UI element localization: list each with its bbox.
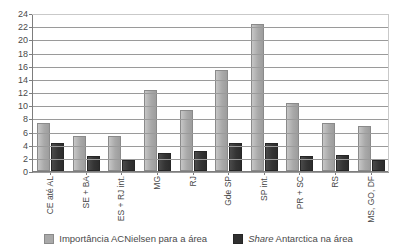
gridline (33, 106, 389, 107)
bar-share (229, 143, 242, 171)
x-label-cell: Gde SP (211, 174, 247, 220)
y-axis-tick (29, 172, 33, 173)
y-axis-label: 18 (18, 49, 28, 58)
x-axis-category-label: CE até AL (45, 176, 54, 214)
plot-area: 024681012141618202224 (32, 14, 389, 172)
bar-importancia (108, 136, 121, 171)
y-axis-label: 10 (18, 102, 28, 111)
bar-chart: 024681012141618202224 CE até ALSE + BAES… (0, 0, 397, 248)
x-label-cell: SE + BA (68, 174, 104, 220)
y-axis-tick (29, 119, 33, 120)
y-axis-label: 14 (18, 75, 28, 84)
gridline (33, 80, 389, 81)
bar-share (336, 155, 349, 171)
y-axis-tick (29, 133, 33, 134)
x-label-cell: MG (139, 174, 175, 220)
bar-share (158, 153, 171, 171)
y-axis-tick (29, 67, 33, 68)
gridline (33, 40, 389, 41)
gridline (33, 54, 389, 55)
gridline (33, 67, 389, 68)
x-axis-category-label: MG (152, 176, 161, 190)
gridline (33, 27, 389, 28)
gridline (33, 146, 389, 147)
bar-importancia (73, 136, 86, 171)
x-axis-category-label: RJ (188, 176, 197, 186)
x-axis-category-label: SE + BA (81, 176, 90, 208)
y-axis-tick (29, 106, 33, 107)
gridline (33, 14, 389, 15)
legend-label-importancia: Importância ACNielsen para a área (59, 233, 207, 244)
y-axis-label: 2 (23, 154, 28, 163)
legend-swatch-share (233, 234, 243, 244)
gridline (33, 119, 389, 120)
x-label-cell: PR + SC (282, 174, 318, 220)
y-axis-tick (29, 40, 33, 41)
x-label-cell: CE até AL (32, 174, 68, 220)
y-axis-tick (29, 93, 33, 94)
gridline (33, 159, 389, 160)
gridline (33, 172, 389, 173)
x-axis-category-label: Gde SP (224, 176, 233, 206)
legend-label-share-rest: Antarctica na área (274, 233, 353, 244)
y-axis-tick (29, 146, 33, 147)
x-axis-category-label: SP int. (260, 176, 269, 201)
y-axis-label: 0 (23, 168, 28, 177)
y-axis-label: 22 (18, 23, 28, 32)
x-label-cell: MS, GO, DF (353, 174, 389, 220)
legend-item-importancia: Importância ACNielsen para a área (44, 233, 207, 244)
chart-legend: Importância ACNielsen para a área Share … (0, 233, 397, 244)
y-axis-label: 16 (18, 62, 28, 71)
y-axis-label: 4 (23, 141, 28, 150)
y-axis-label: 24 (18, 10, 28, 19)
bar-share (194, 151, 207, 171)
x-label-cell: SP int. (246, 174, 282, 220)
y-axis-tick (29, 54, 33, 55)
bar-share (372, 160, 385, 171)
gridline (33, 133, 389, 134)
bar-importancia (322, 123, 335, 171)
bar-importancia (37, 123, 50, 171)
y-axis-label: 8 (23, 115, 28, 124)
y-axis-tick (29, 159, 33, 160)
y-axis-tick (29, 14, 33, 15)
x-axis-category-label: MS, GO, DF (367, 176, 376, 223)
legend-item-share: Share Antarctica na área (233, 233, 353, 244)
x-axis-category-label: PR + SC (295, 176, 304, 209)
bar-importancia (251, 24, 264, 171)
y-axis-label: 20 (18, 36, 28, 45)
x-axis-labels: CE até ALSE + BAES + RJ int.MGRJGde SPSP… (32, 174, 389, 220)
bar-share (122, 160, 135, 171)
legend-label-share: Share Antarctica na área (248, 233, 353, 244)
y-axis-label: 6 (23, 128, 28, 137)
x-axis-category-label: ES + RJ int. (117, 176, 126, 221)
y-axis-tick (29, 80, 33, 81)
x-label-cell: RS (318, 174, 354, 220)
legend-swatch-importancia (44, 234, 54, 244)
y-axis-tick (29, 27, 33, 28)
legend-label-share-italic: Share (248, 233, 273, 244)
bar-importancia (286, 103, 299, 171)
bar-importancia (215, 70, 228, 171)
x-label-cell: RJ (175, 174, 211, 220)
x-axis-category-label: RS (331, 176, 340, 188)
bar-share (51, 143, 64, 171)
x-label-cell: ES + RJ int. (103, 174, 139, 220)
bar-share (265, 143, 278, 171)
y-axis-label: 12 (18, 89, 28, 98)
gridline (33, 93, 389, 94)
